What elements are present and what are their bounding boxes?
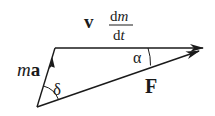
ma-label-m: m [17,59,31,80]
force-vector-line [37,51,199,107]
delta-label: δ [53,80,61,99]
v-label: v [84,11,94,32]
alpha-angle-arc [148,48,151,66]
fraction-numerator-m: m [118,8,129,24]
fraction-denominator-t: t [121,27,126,43]
fraction-numerator: dm [110,8,129,24]
alpha-label: α [133,49,142,66]
force-label: F [145,75,157,97]
ma-label-a: a [31,59,41,80]
vector-diagram: ma v dm dt F α δ [0,0,215,116]
ma-label: ma [17,59,41,80]
fraction-denominator: dt [113,27,126,43]
